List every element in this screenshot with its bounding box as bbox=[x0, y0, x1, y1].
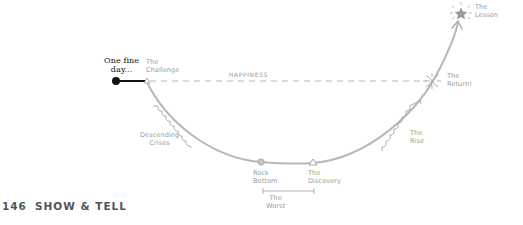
story-arc-svg bbox=[0, 0, 523, 225]
return-starburst-icon bbox=[423, 73, 441, 89]
discovery-label: The Discovery bbox=[308, 170, 341, 185]
descending-crises-label: Descending Crises bbox=[140, 132, 179, 147]
the-lesson-label: The Lesson bbox=[475, 4, 498, 19]
the-rise-label: The Rise bbox=[410, 130, 424, 145]
start-dot-icon bbox=[112, 77, 120, 85]
section-title: SHOW & TELL bbox=[35, 200, 127, 212]
lesson-star-icon bbox=[450, 2, 472, 19]
challenge-label: The Challenge bbox=[146, 59, 179, 74]
the-return-label: The Return! bbox=[447, 73, 472, 88]
happiness-label: HAPPINESS bbox=[229, 71, 268, 78]
page-number: 146 bbox=[2, 200, 27, 212]
the-worst-label: The Worst bbox=[266, 195, 285, 210]
start-label: One fine day... bbox=[104, 56, 139, 74]
rock-bottom-dot-icon bbox=[258, 159, 264, 165]
rock-bottom-label: Rock Bottom bbox=[253, 170, 277, 185]
story-arc-diagram: One fine day... The Challenge HAPPINESS … bbox=[0, 0, 523, 225]
page-footer: 146SHOW & TELL bbox=[2, 200, 127, 212]
